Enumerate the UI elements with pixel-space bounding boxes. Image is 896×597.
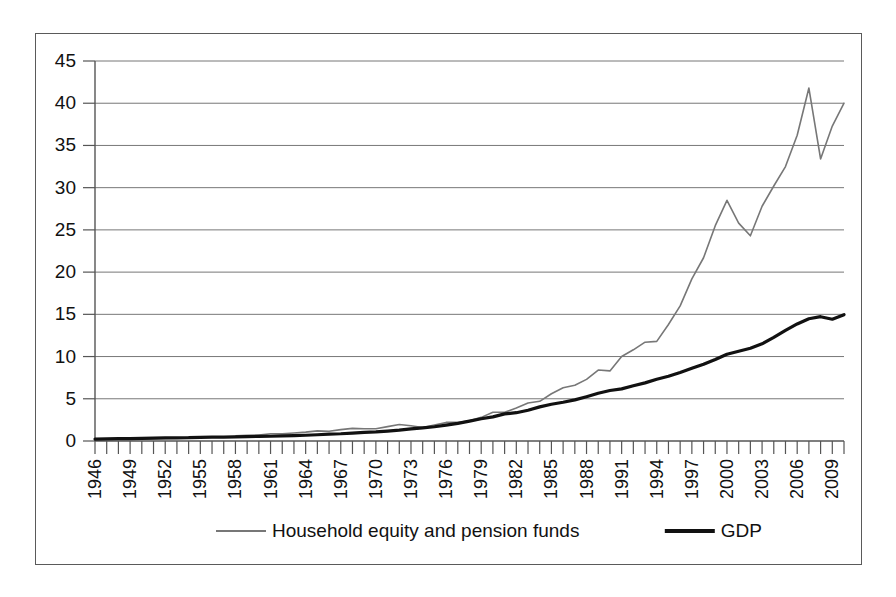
- y-axis-label-10: 10: [55, 346, 76, 367]
- x-axis-label-1991: 1991: [612, 459, 632, 499]
- x-axis-label-1976: 1976: [436, 459, 456, 499]
- plot-area: 0510152025303540451946194919521955195819…: [36, 34, 863, 566]
- y-axis-label-15: 15: [55, 303, 76, 324]
- x-axis-label-1979: 1979: [471, 459, 491, 499]
- y-axis-label-35: 35: [55, 134, 76, 155]
- y-axis-label-45: 45: [55, 50, 76, 71]
- x-axis-label-2009: 2009: [822, 459, 842, 499]
- x-axis-label-1964: 1964: [296, 459, 316, 499]
- x-axis-label-1973: 1973: [401, 459, 421, 499]
- line-chart: 0510152025303540451946194919521955195819…: [36, 34, 863, 566]
- series-line-gdp: [95, 315, 844, 439]
- y-axis-label-40: 40: [55, 92, 76, 113]
- x-axis-label-1982: 1982: [506, 459, 526, 499]
- x-axis-label-1997: 1997: [682, 459, 702, 499]
- x-axis-label-1985: 1985: [541, 459, 561, 499]
- gridlines-group: 051015202530354045: [55, 50, 844, 451]
- y-axis-label-20: 20: [55, 261, 76, 282]
- x-axis-label-1961: 1961: [261, 459, 281, 499]
- x-axis-label-1988: 1988: [577, 459, 597, 499]
- y-axis-label-0: 0: [65, 430, 76, 451]
- legend-label-gdp: GDP: [721, 520, 762, 541]
- x-axis-label-2003: 2003: [752, 459, 772, 499]
- x-axis-label-2006: 2006: [787, 459, 807, 499]
- x-axis-label-1970: 1970: [366, 459, 386, 499]
- chart-frame: 0510152025303540451946194919521955195819…: [35, 33, 862, 565]
- x-axis-labels-group: 1946194919521955195819611964196719701973…: [85, 459, 842, 499]
- x-axis-label-1958: 1958: [225, 459, 245, 499]
- y-axis-label-25: 25: [55, 219, 76, 240]
- y-axis-label-5: 5: [65, 388, 76, 409]
- x-axis-label-1994: 1994: [647, 459, 667, 499]
- x-axis-label-1955: 1955: [190, 459, 210, 499]
- x-axis-label-1967: 1967: [331, 459, 351, 499]
- x-axis-label-2000: 2000: [717, 459, 737, 499]
- series-line-household-equity-and-pension-funds: [95, 88, 844, 440]
- x-axis-label-1949: 1949: [120, 459, 140, 499]
- series-group: [95, 88, 844, 440]
- legend-label-household-equity-and-pension-funds: Household equity and pension funds: [272, 520, 579, 541]
- x-tickmarks-group: [95, 441, 844, 454]
- chart-page: 0510152025303540451946194919521955195819…: [0, 0, 896, 597]
- x-axis-label-1952: 1952: [155, 459, 175, 499]
- y-axis-label-30: 30: [55, 177, 76, 198]
- x-axis-label-1946: 1946: [85, 459, 105, 499]
- legend: Household equity and pension fundsGDP: [216, 520, 762, 541]
